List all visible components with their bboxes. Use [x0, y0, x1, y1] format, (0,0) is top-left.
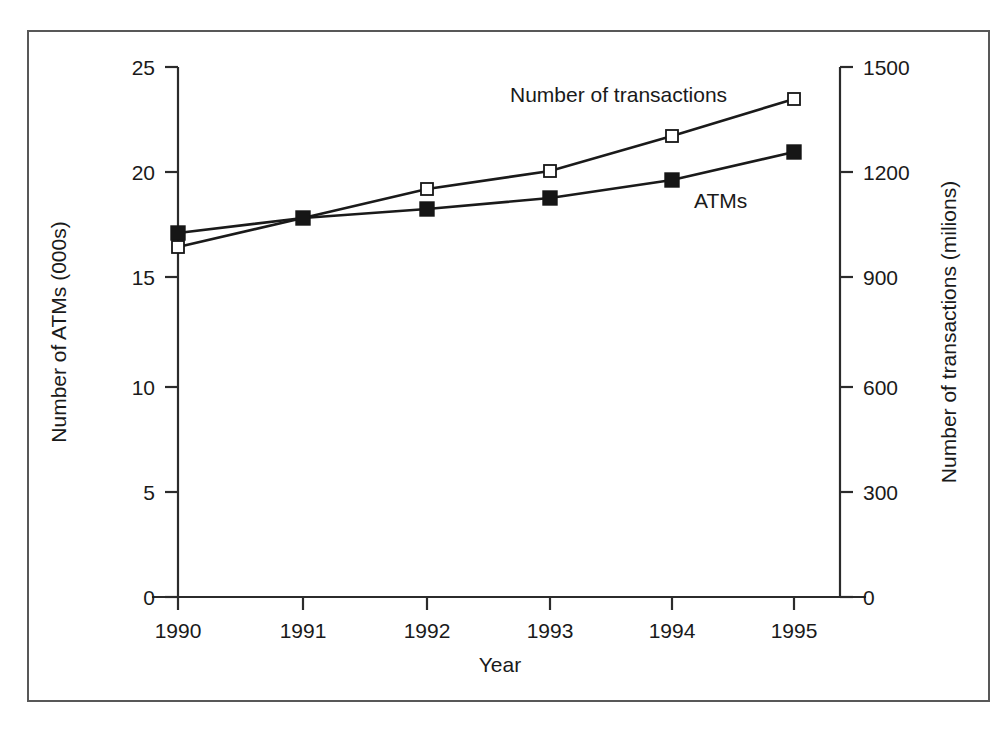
- transactions-marker-1992: [421, 183, 433, 195]
- right-tick-label-900: 900: [863, 266, 898, 289]
- right-tick-label-1500: 1500: [863, 56, 910, 79]
- transactions-marker-1995: [788, 93, 800, 105]
- left-axis-tick-labels: 25 20 15 10 5 0: [132, 56, 155, 609]
- atms-marker-1995: [787, 145, 801, 159]
- x-axis-tick-labels: 1990 1991 1992 1993 1994 1995: [155, 619, 818, 642]
- chart-page: 25 20 15 10 5 0 1500 1200 900 600 300 0: [0, 0, 1003, 731]
- x-tick-label-1993: 1993: [527, 619, 574, 642]
- right-tick-label-600: 600: [863, 376, 898, 399]
- x-tick-label-1991: 1991: [280, 619, 327, 642]
- x-axis-title: Year: [479, 653, 521, 676]
- transactions-marker-1994: [666, 130, 678, 142]
- x-tick-label-1995: 1995: [771, 619, 818, 642]
- right-tick-label-300: 300: [863, 481, 898, 504]
- x-tick-label-1992: 1992: [404, 619, 451, 642]
- atms-series-label: ATMs: [694, 189, 747, 212]
- right-axis-tick-labels: 1500 1200 900 600 300 0: [863, 56, 910, 609]
- left-tick-label-20: 20: [132, 161, 155, 184]
- left-tick-label-15: 15: [132, 266, 155, 289]
- transactions-marker-1990: [172, 241, 184, 253]
- x-tick-label-1994: 1994: [649, 619, 696, 642]
- x-tick-label-1990: 1990: [155, 619, 202, 642]
- atms-marker-1990: [171, 226, 185, 240]
- atms-marker-1991: [296, 211, 310, 225]
- right-tick-label-1200: 1200: [863, 161, 910, 184]
- x-axis-ticks: [178, 597, 794, 610]
- transactions-series-label: Number of transactions: [510, 83, 727, 106]
- right-axis-ticks: [840, 67, 853, 597]
- atm-transactions-line-chart: 25 20 15 10 5 0 1500 1200 900 600 300 0: [0, 0, 1003, 731]
- atms-marker-1993: [543, 191, 557, 205]
- left-tick-label-25: 25: [132, 56, 155, 79]
- atms-marker-1992: [420, 202, 434, 216]
- left-tick-label-0: 0: [143, 586, 155, 609]
- left-tick-label-10: 10: [132, 376, 155, 399]
- left-axis-title: Number of ATMs (000s): [47, 221, 70, 442]
- right-axis-title: Number of transactions (milions): [937, 181, 960, 483]
- left-tick-label-5: 5: [143, 481, 155, 504]
- left-axis-ticks: [165, 67, 178, 597]
- right-tick-label-0: 0: [863, 586, 875, 609]
- transactions-marker-1993: [544, 165, 556, 177]
- atms-marker-1994: [665, 173, 679, 187]
